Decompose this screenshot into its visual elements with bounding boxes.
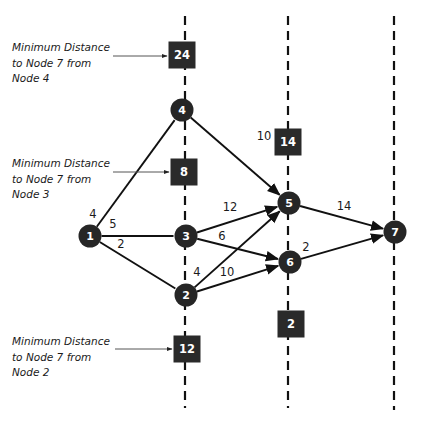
node-3: 3 [175, 225, 198, 248]
annotation-text-line: Node 2 [12, 366, 50, 378]
node-7: 7 [384, 221, 407, 244]
node-label: 5 [285, 197, 293, 210]
min-distance-annotation: Minimum Distanceto Node 7 fromNode 2 [12, 335, 172, 378]
edge-weight-1-2: 2 [117, 237, 124, 251]
edge-weight-1-4: 4 [89, 207, 96, 221]
min-distance-box-node-6: 2 [278, 311, 305, 338]
min-distance-annotation: Minimum Distanceto Node 7 fromNode 4 [12, 41, 167, 84]
edge-weight-3-6: 6 [218, 229, 225, 243]
node-5: 5 [278, 192, 301, 215]
nodes: 1234567 [79, 99, 407, 307]
edge-weight-6-7: 2 [302, 240, 309, 254]
annotation-text-line: Node 3 [12, 188, 49, 200]
min-distance-box-node-5: 14 [275, 129, 302, 156]
node-1: 1 [79, 225, 102, 248]
distance-value: 24 [174, 48, 190, 62]
edge-1-4 [97, 120, 175, 227]
node-label: 3 [182, 230, 190, 243]
node-label: 2 [182, 289, 190, 302]
node-label: 7 [391, 226, 399, 239]
edge-weight-2-6: 10 [220, 265, 235, 279]
annotation-text-line: Minimum Distance [12, 335, 110, 347]
node-label: 6 [286, 256, 294, 269]
node-label: 1 [86, 230, 94, 243]
network-diagram: 24814212 1234567 45210126410142 Minimum … [0, 0, 421, 422]
min-distance-box-node-2: 12 [174, 336, 201, 363]
edge-1-2 [100, 242, 176, 288]
min-distance-annotation: Minimum Distanceto Node 7 fromNode 3 [12, 157, 169, 200]
annotation-text-line: to Node 7 from [12, 351, 91, 363]
annotation-text-line: Node 4 [12, 72, 49, 84]
annotation-text-line: to Node 7 from [12, 57, 91, 69]
edge-weight-3-5: 12 [223, 200, 238, 214]
edge-2-6 [197, 266, 278, 292]
distance-value: 12 [179, 342, 195, 356]
edge-weight-2-5: 4 [193, 265, 200, 279]
min-distance-box-node-4: 24 [169, 42, 196, 69]
edge-2-5 [195, 211, 280, 287]
edge-6-7 [301, 235, 383, 258]
distance-value: 8 [180, 165, 188, 179]
node-label: 4 [178, 104, 186, 117]
distance-value: 2 [287, 317, 295, 331]
annotation-text-line: Minimum Distance [12, 41, 110, 53]
distance-value: 14 [280, 135, 296, 149]
min-distance-box-node-3: 8 [171, 159, 198, 186]
edge-weight-5-7: 14 [337, 199, 352, 213]
annotation-text-line: to Node 7 from [12, 173, 91, 185]
node-2: 2 [175, 284, 198, 307]
node-4: 4 [171, 99, 194, 122]
annotation-text-line: Minimum Distance [12, 157, 110, 169]
edge-weight-4-5: 10 [257, 129, 272, 143]
node-6: 6 [279, 251, 302, 274]
edge-weight-1-3: 5 [109, 217, 116, 231]
diagram-canvas: 24814212 1234567 45210126410142 Minimum … [0, 0, 421, 422]
